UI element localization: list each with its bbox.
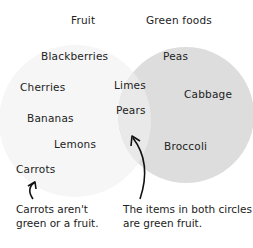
item-blackberries: Blackberries [41,50,108,62]
item-lemons: Lemons [54,138,96,150]
item-bananas: Bananas [27,112,74,124]
overlap-note-line2: are green fruit. [123,216,252,230]
item-limes: Limes [114,79,146,91]
carrots-note-line2: green or a fruit. [16,216,99,230]
item-carrots: Carrots [16,163,55,175]
item-cabbage: Cabbage [184,88,232,100]
carrots-note-line1: Carrots aren't [16,202,99,216]
carrots-note: Carrots aren't green or a fruit. [16,202,99,230]
item-peas: Peas [163,50,188,62]
set-label-green-foods: Green foods [146,14,212,26]
item-broccoli: Broccoli [164,140,207,152]
item-pears: Pears [116,104,146,116]
item-cherries: Cherries [20,81,65,93]
overlap-note: The items in both circles are green frui… [123,202,252,230]
set-label-fruit: Fruit [71,14,95,26]
overlap-note-line1: The items in both circles [123,202,252,216]
